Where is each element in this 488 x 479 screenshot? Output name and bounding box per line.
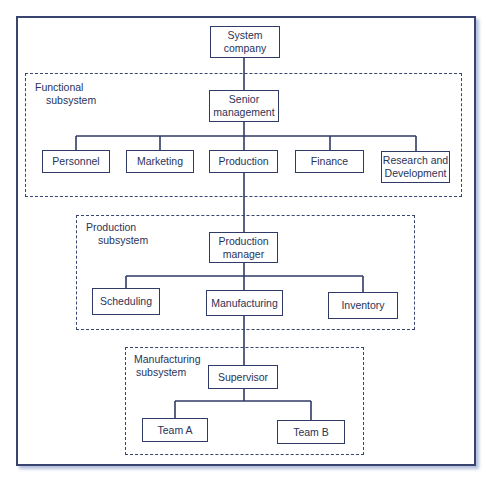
manufacturing-subsystem-label: Manufacturing subsystem bbox=[134, 353, 201, 379]
node-team-b: Team B bbox=[277, 420, 345, 444]
node-senior-management: Senior management bbox=[209, 90, 279, 122]
node-marketing: Marketing bbox=[126, 150, 194, 173]
node-production-manager: Production manager bbox=[209, 232, 278, 263]
node-inventory: Inventory bbox=[328, 292, 398, 319]
node-personnel: Personnel bbox=[42, 150, 110, 173]
node-supervisor: Supervisor bbox=[208, 365, 278, 389]
node-system-company: System company bbox=[210, 26, 280, 58]
node-scheduling: Scheduling bbox=[92, 288, 160, 315]
node-research-development: Research and Development bbox=[381, 151, 450, 183]
node-team-a: Team A bbox=[142, 418, 208, 442]
node-production: Production bbox=[209, 150, 278, 173]
production-subsystem-label: Production subsystem bbox=[86, 221, 148, 247]
node-finance: Finance bbox=[295, 150, 364, 173]
node-manufacturing: Manufacturing bbox=[206, 290, 283, 316]
functional-subsystem-label: Functional subsystem bbox=[35, 81, 96, 107]
